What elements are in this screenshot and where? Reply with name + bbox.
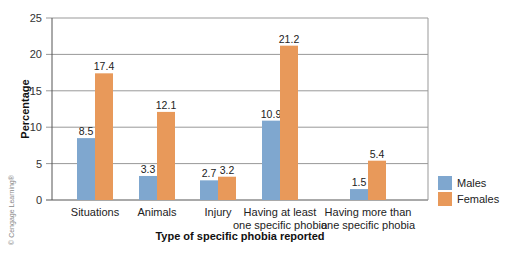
bar-females bbox=[157, 112, 175, 200]
y-tick-label: 0 bbox=[36, 194, 42, 206]
bar-females bbox=[218, 177, 236, 200]
bar-males bbox=[350, 189, 368, 200]
x-category-label: Having at least bbox=[244, 206, 317, 218]
x-axis-categories: SituationsAnimalsInjuryHaving at leaston… bbox=[71, 206, 416, 231]
bar-value-label: 17.4 bbox=[94, 60, 115, 72]
y-axis-ticks: 0510152025 bbox=[30, 12, 42, 206]
x-axis-title: Type of specific phobia reported bbox=[155, 230, 324, 242]
legend-label-males: Males bbox=[457, 177, 487, 189]
y-tick-label: 10 bbox=[30, 121, 42, 133]
bar-value-label: 5.4 bbox=[370, 148, 385, 160]
x-category-label: Having more than bbox=[325, 206, 412, 218]
bar-males bbox=[139, 176, 157, 200]
x-category-label: Injury bbox=[205, 206, 232, 218]
bar-value-label: 12.1 bbox=[156, 99, 177, 111]
copyright-credit: © Cengage Learning® bbox=[8, 174, 16, 245]
bar-females bbox=[280, 46, 298, 200]
y-axis-title: Percentage bbox=[19, 79, 31, 138]
y-tick-label: 5 bbox=[36, 158, 42, 170]
x-category-label: Situations bbox=[71, 206, 120, 218]
bar-females bbox=[95, 73, 113, 200]
bar-females bbox=[368, 161, 386, 200]
bar-males bbox=[77, 138, 95, 200]
legend-swatch-males bbox=[438, 176, 452, 190]
y-tick-label: 25 bbox=[30, 12, 42, 24]
legend-label-females: Females bbox=[457, 193, 500, 205]
y-tick-label: 20 bbox=[30, 48, 42, 60]
y-tick-label: 15 bbox=[30, 85, 42, 97]
bar-males bbox=[200, 180, 218, 200]
bar-value-label: 2.7 bbox=[202, 167, 217, 179]
legend-swatch-females bbox=[438, 192, 452, 206]
bar-value-label: 3.3 bbox=[141, 163, 156, 175]
bar-value-label: 8.5 bbox=[79, 125, 94, 137]
legend: MalesFemales bbox=[438, 176, 500, 206]
bar-males bbox=[262, 121, 280, 200]
bar-chart: 0510152025 8.517.43.312.12.73.210.921.21… bbox=[0, 0, 508, 256]
bars: 8.517.43.312.12.73.210.921.21.55.4 bbox=[77, 33, 386, 200]
x-category-label: one specific phobia bbox=[321, 219, 416, 231]
bar-value-label: 1.5 bbox=[352, 176, 367, 188]
x-category-label: Animals bbox=[137, 206, 177, 218]
bar-value-label: 21.2 bbox=[279, 33, 300, 45]
bar-value-label: 10.9 bbox=[261, 108, 282, 120]
bar-value-label: 3.2 bbox=[220, 164, 235, 176]
